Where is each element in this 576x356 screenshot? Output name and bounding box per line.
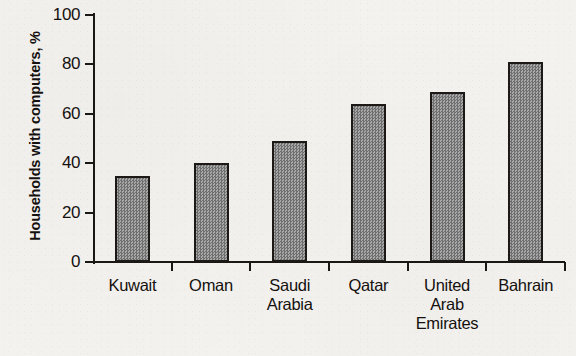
x-axis-tick — [485, 262, 487, 271]
x-axis-tick — [249, 262, 251, 271]
y-axis-title: Households with computers, % — [27, 1, 43, 271]
y-axis-tick-label: 40 — [36, 153, 80, 173]
y-axis-tick — [85, 212, 94, 214]
y-axis-tick-label-wrap: 20 — [28, 203, 80, 219]
bar — [194, 163, 229, 262]
x-axis-label-line: Qatar — [329, 276, 408, 295]
y-axis-tick — [85, 14, 94, 16]
y-axis-tick — [85, 162, 94, 164]
x-axis-label-line: Arab — [408, 295, 487, 314]
y-axis-tick-label-wrap: 80 — [28, 54, 80, 70]
y-axis-tick-label-wrap: 40 — [28, 153, 80, 169]
x-axis-label: UnitedArabEmirates — [408, 276, 487, 333]
y-axis-line — [93, 13, 95, 264]
y-axis-tick-label: 80 — [36, 54, 80, 74]
bar — [430, 92, 465, 262]
x-axis-label-line: Oman — [172, 276, 251, 295]
x-axis-label: SaudiArabia — [250, 276, 329, 314]
y-axis-tick-label-wrap: 0 — [28, 252, 80, 268]
bar — [508, 62, 543, 262]
x-axis-label-line: Kuwait — [93, 276, 172, 295]
x-axis-tick — [171, 262, 173, 271]
x-axis-label-line: United — [408, 276, 487, 295]
x-axis-label: Kuwait — [93, 276, 172, 295]
y-axis-tick-label-wrap: 60 — [28, 104, 80, 120]
x-axis-label-line: Emirates — [408, 314, 487, 333]
x-axis-label-line: Saudi — [250, 276, 329, 295]
x-axis-tick — [407, 262, 409, 271]
y-axis-tick — [85, 113, 94, 115]
y-axis-tick-label: 60 — [36, 104, 80, 124]
y-axis-tick-label-wrap: 100 — [28, 5, 80, 21]
x-axis-label: Oman — [172, 276, 251, 295]
bar — [115, 176, 150, 262]
bar — [351, 104, 386, 262]
y-axis-tick-label: 20 — [36, 203, 80, 223]
y-axis-tick — [85, 63, 94, 65]
x-axis-label-line: Arabia — [250, 295, 329, 314]
bar-chart: Households with computers, % 10080604020… — [0, 0, 576, 356]
y-axis-tick — [85, 261, 94, 263]
bar — [272, 141, 307, 262]
x-axis-tick — [564, 262, 566, 271]
x-axis-label: Qatar — [329, 276, 408, 295]
x-axis-label-line: Bahrain — [486, 276, 565, 295]
x-axis-label: Bahrain — [486, 276, 565, 295]
x-axis-tick — [328, 262, 330, 271]
y-axis-tick-label: 0 — [36, 252, 80, 272]
y-axis-tick-label: 100 — [36, 5, 80, 25]
